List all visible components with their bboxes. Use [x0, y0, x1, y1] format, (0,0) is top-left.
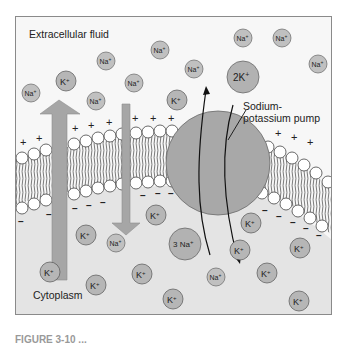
k-ion: K+: [132, 264, 152, 284]
svg-text:–: –: [46, 209, 52, 220]
k-ion: K+: [167, 90, 187, 110]
svg-text:–: –: [290, 217, 296, 228]
k-ion: K+: [290, 238, 310, 258]
na-ion: Na+: [22, 84, 40, 102]
svg-text:–: –: [140, 190, 146, 201]
figure-caption: FIGURE 3-10 ...: [15, 334, 87, 344]
k-ion: K+: [146, 205, 166, 225]
pump-protein: [166, 111, 270, 215]
svg-text:+: +: [291, 131, 297, 143]
na-ion: Na+: [97, 52, 115, 70]
svg-text:–: –: [72, 203, 78, 214]
svg-text:+: +: [168, 112, 174, 124]
k-ion: K+: [289, 291, 309, 311]
svg-text:+: +: [307, 136, 313, 148]
na-ion: Na+: [207, 268, 225, 286]
svg-text:–: –: [86, 200, 92, 211]
svg-text:–: –: [100, 197, 106, 208]
na-ion: Na+: [87, 92, 105, 110]
na-ion: Na+: [273, 29, 291, 47]
na-ion: Na+: [185, 60, 203, 78]
pump-label-line2: potassium pump: [243, 112, 320, 124]
svg-text:+: +: [106, 116, 112, 128]
k-ion: K+: [241, 213, 261, 233]
k-ion: K+: [230, 240, 250, 260]
na-ion: Na+: [151, 41, 169, 59]
k-ion: K+: [76, 225, 96, 245]
svg-text:–: –: [18, 216, 24, 227]
pump-label-line1: Sodium-: [243, 100, 283, 112]
k-ion: K+: [257, 263, 277, 283]
svg-text:+: +: [275, 127, 281, 139]
svg-text:+: +: [88, 119, 94, 131]
pump-inbound-sodium: 3 Na+: [169, 228, 201, 260]
na-ion: Na+: [309, 55, 327, 73]
cytoplasm-label: Cytoplasm: [33, 289, 83, 301]
k-ion: K+: [56, 71, 76, 91]
sodium-potassium-pump-diagram: + + + + + + + + + + + – – – – – – – – – …: [0, 0, 346, 344]
k-ion: K+: [163, 289, 183, 309]
svg-text:–: –: [303, 223, 309, 234]
svg-text:+: +: [36, 132, 42, 144]
diagram-frame: + + + + + + + + + + + – – – – – – – – – …: [15, 16, 334, 315]
k-ion: K+: [40, 262, 60, 282]
extracellular-label: Extracellular fluid: [29, 28, 109, 40]
pump-outbound-potassium: 2K+: [227, 61, 259, 93]
na-ion: Na+: [107, 234, 125, 252]
svg-text:+: +: [150, 112, 156, 124]
na-ion: Na+: [234, 29, 252, 47]
svg-text:–: –: [155, 188, 161, 199]
svg-text:+: +: [72, 122, 78, 134]
svg-text:–: –: [316, 230, 322, 241]
svg-text:–: –: [276, 211, 282, 222]
na-ion: Na+: [125, 74, 143, 92]
k-ion: K+: [86, 275, 106, 295]
svg-text:+: +: [20, 136, 26, 148]
svg-text:–: –: [262, 205, 268, 216]
svg-text:+: +: [132, 112, 138, 124]
